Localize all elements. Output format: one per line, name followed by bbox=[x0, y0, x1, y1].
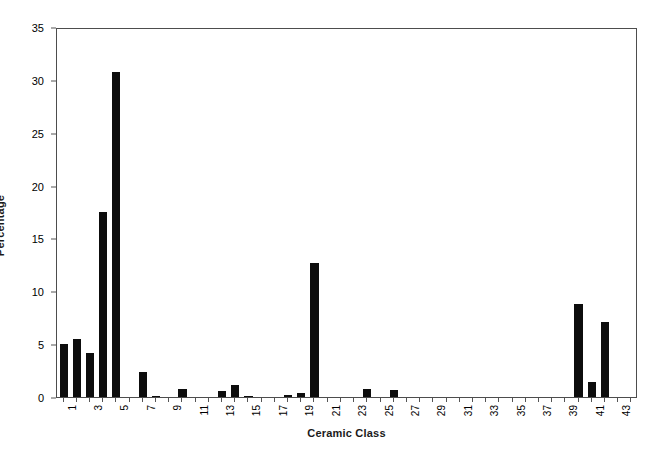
x-tick-mark bbox=[472, 398, 473, 402]
x-tick-mark bbox=[340, 398, 341, 402]
x-tick-mark bbox=[115, 398, 116, 402]
bar bbox=[86, 353, 94, 397]
x-tick-mark bbox=[406, 398, 407, 402]
x-tick-mark bbox=[617, 398, 618, 402]
x-tick-mark bbox=[313, 398, 314, 402]
bar bbox=[139, 372, 147, 397]
bar bbox=[152, 396, 160, 397]
x-tick-mark bbox=[419, 398, 420, 402]
y-tick-label: 5 bbox=[38, 339, 44, 351]
x-axis-ticks: 135791113151719212325272931333537394143 bbox=[56, 398, 637, 451]
x-tick-label: 21 bbox=[331, 405, 342, 416]
x-tick-label: 41 bbox=[595, 405, 606, 416]
bar bbox=[574, 304, 582, 397]
bar bbox=[297, 393, 305, 397]
x-tick-label: 15 bbox=[251, 405, 262, 416]
x-tick-mark bbox=[287, 398, 288, 402]
x-tick-label: 13 bbox=[225, 405, 236, 416]
x-tick-mark bbox=[102, 398, 103, 402]
bar bbox=[231, 385, 239, 397]
x-tick-label: 27 bbox=[410, 405, 421, 416]
bar bbox=[390, 390, 398, 397]
bar-chart-figure: Percentage 05101520253035 13579111315171… bbox=[0, 0, 652, 451]
x-tick-label: 23 bbox=[357, 405, 368, 416]
x-tick-mark bbox=[89, 398, 90, 402]
bar-series bbox=[57, 29, 636, 397]
x-tick-mark bbox=[195, 398, 196, 402]
x-tick-mark bbox=[142, 398, 143, 402]
x-tick-mark bbox=[168, 398, 169, 402]
plot-area bbox=[56, 28, 637, 398]
y-tick-label: 30 bbox=[32, 75, 44, 87]
y-tick-label: 25 bbox=[32, 128, 44, 140]
x-tick-label: 5 bbox=[119, 405, 130, 411]
x-tick-mark bbox=[393, 398, 394, 402]
x-tick-mark bbox=[432, 398, 433, 402]
bar bbox=[73, 339, 81, 397]
x-tick-mark bbox=[485, 398, 486, 402]
x-tick-mark bbox=[512, 398, 513, 402]
x-tick-label: 11 bbox=[199, 405, 210, 415]
x-tick-label: 37 bbox=[542, 405, 553, 416]
x-tick-mark bbox=[446, 398, 447, 402]
bar bbox=[588, 382, 596, 397]
bar bbox=[60, 344, 68, 397]
x-tick-mark bbox=[261, 398, 262, 402]
x-tick-mark bbox=[578, 398, 579, 402]
x-tick-mark bbox=[591, 398, 592, 402]
x-tick-mark bbox=[604, 398, 605, 402]
x-tick-mark bbox=[630, 398, 631, 402]
bar bbox=[244, 396, 252, 397]
bar bbox=[284, 395, 292, 397]
bar bbox=[218, 391, 226, 397]
x-tick-mark bbox=[221, 398, 222, 402]
bar bbox=[363, 389, 371, 397]
y-tick-label: 35 bbox=[32, 22, 44, 34]
x-tick-mark bbox=[155, 398, 156, 402]
x-tick-label: 31 bbox=[463, 405, 474, 416]
x-tick-mark bbox=[498, 398, 499, 402]
x-tick-label: 39 bbox=[568, 405, 579, 416]
x-tick-label: 9 bbox=[172, 405, 183, 411]
x-tick-mark bbox=[300, 398, 301, 402]
y-axis-ticks: 05101520253035 bbox=[0, 0, 54, 451]
x-tick-label: 19 bbox=[304, 405, 315, 416]
x-tick-label: 7 bbox=[146, 405, 157, 411]
x-tick-mark bbox=[181, 398, 182, 402]
x-tick-mark bbox=[366, 398, 367, 402]
x-tick-label: 33 bbox=[489, 405, 500, 416]
y-tick-label: 20 bbox=[32, 181, 44, 193]
x-tick-mark bbox=[551, 398, 552, 402]
x-tick-mark bbox=[525, 398, 526, 402]
x-tick-mark bbox=[129, 398, 130, 402]
x-tick-mark bbox=[247, 398, 248, 402]
x-tick-mark bbox=[208, 398, 209, 402]
x-tick-label: 35 bbox=[516, 405, 527, 416]
x-tick-mark bbox=[459, 398, 460, 402]
x-tick-label: 3 bbox=[93, 405, 104, 411]
x-tick-label: 25 bbox=[384, 405, 395, 416]
x-tick-mark bbox=[274, 398, 275, 402]
bar bbox=[99, 212, 107, 397]
y-tick-label: 15 bbox=[32, 233, 44, 245]
x-tick-mark bbox=[353, 398, 354, 402]
x-tick-mark bbox=[76, 398, 77, 402]
x-tick-mark bbox=[380, 398, 381, 402]
x-tick-label: 43 bbox=[621, 405, 632, 416]
bar bbox=[178, 389, 186, 397]
x-axis-title: Ceramic Class bbox=[56, 427, 637, 439]
x-tick-mark bbox=[234, 398, 235, 402]
bar bbox=[601, 322, 609, 397]
x-tick-label: 17 bbox=[278, 405, 289, 416]
y-tick-label: 0 bbox=[38, 392, 44, 404]
bar bbox=[310, 263, 318, 397]
x-tick-mark bbox=[564, 398, 565, 402]
x-tick-mark bbox=[327, 398, 328, 402]
x-tick-label: 1 bbox=[67, 405, 78, 411]
y-tick-label: 10 bbox=[32, 286, 44, 298]
x-tick-mark bbox=[538, 398, 539, 402]
x-tick-mark bbox=[63, 398, 64, 402]
bar bbox=[112, 72, 120, 397]
x-tick-label: 29 bbox=[436, 405, 447, 416]
